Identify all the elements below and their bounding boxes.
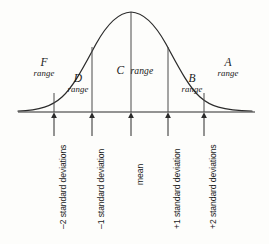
grade-word-c: range (128, 65, 153, 76)
axis-label-minus2-standard-deviations: –2 standard deviations (58, 145, 68, 229)
grade-range-label-d: D range (58, 72, 98, 95)
grade-word-d: range (58, 85, 98, 95)
grade-letter-a: A (206, 56, 250, 69)
axis-label-mean: mean (135, 164, 145, 185)
grade-letter-c: C (117, 64, 125, 76)
grade-word-b: range (172, 85, 212, 95)
axis-arrow-minus2 (51, 112, 57, 136)
grade-range-label-a: A range (206, 56, 250, 79)
axis-arrow-plus1 (165, 112, 171, 136)
grade-range-label-c: C range (104, 60, 166, 78)
bell-curve-figure: F range D range C range B range A range … (0, 0, 269, 244)
grade-letter-d: D (58, 72, 98, 85)
axis-arrow-plus2 (201, 112, 207, 136)
axis-arrow-mean (128, 112, 134, 136)
grade-letter-f: F (24, 56, 64, 69)
axis-label-minus1-standard-deviation: –1 standard deviation (96, 149, 106, 229)
grade-word-a: range (206, 69, 250, 79)
bell-curve-canvas (0, 0, 269, 244)
axis-label-plus2-standard-deviations: +2 standard deviations (208, 144, 218, 229)
axis-arrow-minus1 (89, 112, 95, 136)
axis-label-plus1-standard-deviation: +1 standard deviation (172, 149, 182, 229)
